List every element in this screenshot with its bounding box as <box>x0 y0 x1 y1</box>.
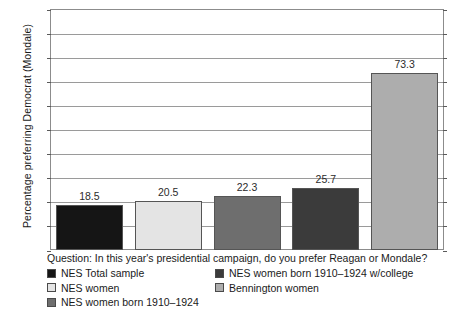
bar <box>135 201 202 250</box>
legend-label: Bennington women <box>229 282 319 294</box>
legend-label: NES women born 1910–1924 <box>61 296 199 308</box>
legend-swatch-icon <box>47 269 56 278</box>
legend-item[interactable]: Bennington women <box>215 282 319 294</box>
caption-block: Question: In this year's presidential ca… <box>47 252 447 313</box>
legend-label: NES women <box>61 282 119 294</box>
bar-value-label: 22.3 <box>214 181 281 193</box>
bar-chart-figure: Percentage preferring Democrat (Mondale)… <box>0 0 454 323</box>
legend-item[interactable]: NES women born 1910–1924 w/college <box>215 267 413 279</box>
legend-swatch-icon <box>47 283 56 292</box>
bar-value-label: 18.5 <box>56 190 123 202</box>
legend-label: NES Total sample <box>61 267 144 279</box>
legend: NES Total sampleNES womenNES women born … <box>47 267 447 313</box>
bar <box>371 73 438 250</box>
bar <box>292 188 359 250</box>
legend-item[interactable]: NES Total sample <box>47 267 144 279</box>
y-axis-title: Percentage preferring Democrat (Mondale) <box>21 6 33 246</box>
bar-value-label: 73.3 <box>371 58 438 70</box>
bar <box>56 205 123 250</box>
bars-layer: 18.520.522.325.773.3 <box>50 9 444 250</box>
question-caption: Question: In this year's presidential ca… <box>47 252 447 265</box>
legend-label: NES women born 1910–1924 w/college <box>229 267 413 279</box>
legend-swatch-icon <box>215 283 224 292</box>
legend-item[interactable]: NES women born 1910–1924 <box>47 296 199 308</box>
bar <box>214 196 281 250</box>
bar-value-label: 25.7 <box>292 173 359 185</box>
legend-swatch-icon <box>47 298 56 307</box>
legend-item[interactable]: NES women <box>47 282 119 294</box>
legend-swatch-icon <box>215 269 224 278</box>
bar-value-label: 20.5 <box>135 186 202 198</box>
